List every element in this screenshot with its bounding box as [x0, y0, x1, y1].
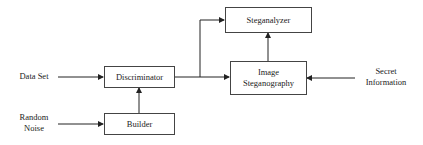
image-steganography-node: Image Steganography	[230, 61, 307, 95]
image-steganography-label-line1: Image	[258, 67, 279, 78]
random-noise-label: Random Noise	[14, 112, 54, 134]
discriminator-label: Discriminator	[116, 72, 163, 83]
builder-node: Builder	[104, 113, 175, 135]
image-steganography-label-line2: Steganography	[243, 78, 294, 89]
random-noise-line2: Noise	[14, 123, 54, 134]
data-set-label: Data Set	[14, 71, 54, 82]
discriminator-node: Discriminator	[104, 66, 175, 88]
steganalyzer-node: Steganalyzer	[225, 7, 312, 33]
builder-label: Builder	[127, 119, 153, 130]
steganalyzer-label: Steganalyzer	[247, 15, 291, 26]
random-noise-line1: Random	[14, 112, 54, 123]
secret-information-line2: Information	[360, 77, 412, 88]
secret-information-line1: Secret	[360, 66, 412, 77]
data-set-text: Data Set	[19, 71, 48, 81]
secret-information-label: Secret Information	[360, 66, 412, 88]
gan-steganography-diagram: Discriminator Builder Steganalyzer Image…	[0, 0, 423, 145]
